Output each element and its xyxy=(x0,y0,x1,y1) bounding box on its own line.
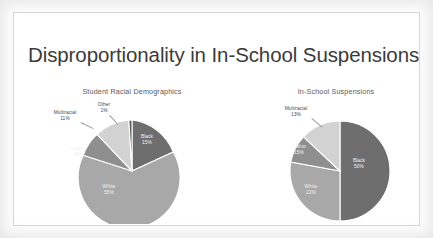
pie-label-latino-pct: 15% xyxy=(285,150,313,156)
pie-label-other: Other 1% xyxy=(92,102,116,113)
pie-label-multiracial: Multiracial 13% xyxy=(279,106,313,117)
pie-label-latino-pct: 18% xyxy=(63,152,93,158)
pie-label-black: Black 15% xyxy=(132,134,162,145)
pie-label-black-pct: 15% xyxy=(132,140,162,146)
pie-label-white-pct: 22% xyxy=(297,190,325,196)
presentation-slide: Disproportionality in In-School Suspensi… xyxy=(13,12,420,226)
pie-slice-black xyxy=(340,121,390,221)
screenshot-root: Disproportionality in In-School Suspensi… xyxy=(0,0,433,238)
chart-student-racial-demographics: Student Racial Demographics xyxy=(48,87,216,224)
pie-label-white: White 22% xyxy=(297,184,325,195)
chart-in-school-suspensions: In-School Suspensions Black 50% xyxy=(257,87,415,224)
pie-label-latino: Latino 18% xyxy=(63,146,93,157)
pie-chart-right: Black 50% White 22% Latino 15% Multiraci… xyxy=(257,96,415,224)
pie-label-black: Black 50% xyxy=(345,158,373,169)
pie-label-white: White 55% xyxy=(94,184,124,195)
pie-label-black-pct: 50% xyxy=(345,164,373,170)
pie-label-other-pct: 1% xyxy=(92,108,116,114)
chart-title-left: Student Racial Demographics xyxy=(48,87,216,96)
page-title: Disproportionality in In-School Suspensi… xyxy=(28,43,413,67)
pie-label-latino: Latino 15% xyxy=(285,144,313,155)
pie-label-multiracial-pct: 13% xyxy=(279,112,313,118)
pie-label-white-pct: 55% xyxy=(94,190,124,196)
pie-label-multiracial: Multiracial 11% xyxy=(48,110,82,121)
pie-chart-right-svg xyxy=(287,118,393,224)
pie-chart-left: Black 15% White 55% Latino 18% Multiraci… xyxy=(48,96,216,224)
chart-title-right: In-School Suspensions xyxy=(257,87,415,96)
pie-label-multiracial-pct: 11% xyxy=(48,116,82,122)
